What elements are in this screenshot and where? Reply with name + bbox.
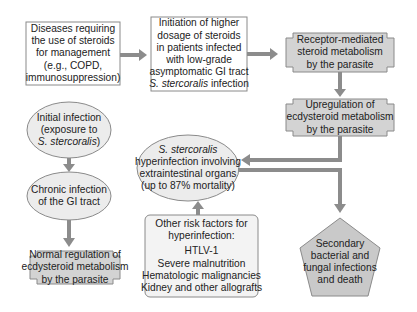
text-line: by the parasite (42, 274, 109, 286)
text-line: (exposure to (41, 124, 98, 136)
text-line: Receptor-mediated (297, 34, 384, 46)
text-line: (e.g., COPD, (44, 60, 102, 72)
text-line: Other risk factors for (155, 218, 247, 230)
text-line: asymptomatic GI tract (149, 66, 248, 78)
text-line: in patients infected (157, 42, 242, 54)
upregulation-label: Upregulation of ecdysteroid metabolism b… (286, 99, 394, 136)
text-line: Upregulation of (305, 99, 374, 111)
text-line: fungal infections (303, 262, 377, 274)
text-line: bacterial and (311, 250, 369, 262)
text-line: dosage of steroids (157, 30, 240, 42)
normal-regulation-label: Normal regulation of ecdysteroid metabol… (30, 251, 120, 284)
text-line: Kidney and other allografts (141, 282, 262, 294)
arrowhead-icon (139, 49, 147, 61)
species-name: S. stercoralis (38, 136, 97, 147)
text-line: Secondary (316, 238, 365, 250)
arrowhead-icon (241, 154, 250, 166)
arrowhead-icon (192, 201, 204, 209)
text-line: S. stercoralis) (38, 136, 100, 148)
arrowhead-icon (334, 89, 346, 97)
text-line: with low-grade (166, 54, 232, 66)
text-line: Severe malnutrition (158, 258, 246, 270)
text-line: for management (36, 47, 110, 59)
text-tail: ) (97, 136, 100, 147)
arrowhead-icon (334, 204, 346, 213)
arrowhead-icon (63, 164, 75, 172)
arrow-upregulation-to-hyperinfection (249, 136, 340, 160)
outcome-label: Secondary bacterial and fungal infection… (300, 236, 380, 288)
text-line: immunosuppression) (26, 72, 121, 84)
initial-infection-label: Initial infection (exposure to S. sterco… (27, 102, 111, 158)
text-line: hyperinfection involving (135, 156, 241, 168)
text-line: extraintestinal organs (140, 168, 237, 180)
text-line: the use of steroids (31, 35, 114, 47)
chronic-infection-label: Chronic infection of the GI tract (27, 172, 111, 220)
species-name: S. stercoralis (149, 78, 208, 89)
receptor-metabolism-label: Receptor-mediated steroid metabolism by … (286, 33, 394, 72)
arrow-hyperinfection-to-outcome (238, 170, 340, 205)
text-line: Initiation of higher (159, 17, 239, 29)
text-line: by the parasite (307, 124, 374, 136)
arrowhead-icon (270, 48, 278, 60)
text-line: by the parasite (307, 59, 374, 71)
text-line: ecdysteroid metabolism (286, 111, 393, 123)
steroid-diseases-label: Diseases requiring the use of steroids f… (26, 22, 120, 85)
text-line: steroid metabolism (297, 46, 383, 58)
text-line: Diseases requiring (31, 23, 115, 35)
text-line: and death (317, 274, 362, 286)
arrowhead-icon (63, 238, 75, 247)
text-line: ecdysteroid metabolism (22, 261, 129, 273)
text-line: of the GI tract (38, 196, 100, 208)
risk-factors-label: Other risk factors for hyperinfection: H… (145, 215, 258, 297)
text-line: HTLV-1 (185, 245, 219, 257)
text-line: Initial infection (37, 112, 102, 124)
text-line: Normal regulation of (29, 249, 121, 261)
hyperinfection-label: S. stercoralis hyperinfection involving … (137, 135, 239, 201)
text-line: hyperinfection: (168, 230, 234, 242)
text-line: Hematologic malignancies (142, 270, 261, 282)
species-name: S. stercoralis (159, 144, 218, 156)
text-line: S. stercoralis infection (149, 78, 249, 90)
text-line: Chronic infection (31, 184, 107, 196)
steroid-initiation-label: Initiation of higher dosage of steroids … (151, 17, 247, 91)
text-line: (up to 87% mortality) (141, 180, 235, 192)
text-tail: infection (208, 78, 249, 89)
